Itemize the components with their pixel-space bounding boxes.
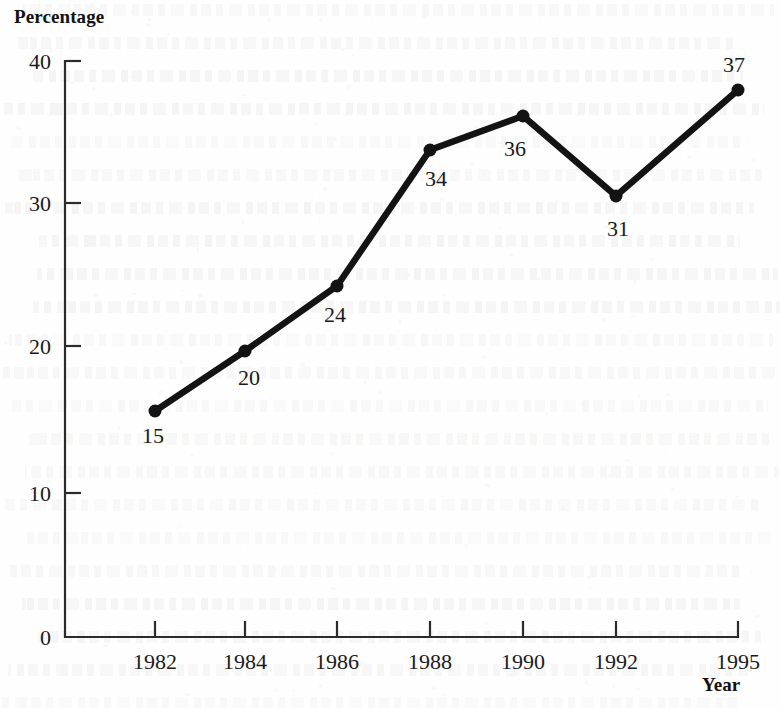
chart-page: Percentage Year 010203040 19821984198619… [0,0,780,708]
axis-group [65,61,738,637]
x-tick-label: 1984 [223,649,267,674]
y-axis-title: Percentage [14,6,104,28]
data-point-marker [149,405,162,418]
data-point-labels: 15202434363137 [142,52,745,448]
x-tick-label: 1982 [133,649,177,674]
series-line [155,90,738,411]
data-point-marker [517,110,530,123]
data-point-value-label: 31 [607,216,629,241]
y-axis-ticks [65,61,81,493]
line-chart-svg: 010203040 1982198419861988199019921995 1… [0,0,780,708]
y-tick-label: 0 [40,625,51,650]
x-tick-label: 1986 [315,649,359,674]
x-tick-label: 1988 [408,649,452,674]
data-point-value-label: 34 [425,166,447,191]
x-tick-label: 1995 [716,649,760,674]
y-tick-label: 40 [29,49,51,74]
x-axis-title: Year [702,674,740,696]
data-point-value-label: 36 [504,136,526,161]
x-tick-label: 1992 [594,649,638,674]
data-point-value-label: 20 [238,365,260,390]
axis-lines [65,61,738,637]
data-point-marker [424,144,437,157]
data-point-value-label: 24 [324,302,346,327]
x-axis-ticks [155,621,738,637]
data-point-value-label: 15 [142,423,164,448]
data-point-marker [610,190,623,203]
y-tick-label: 20 [29,334,51,359]
data-point-value-label: 37 [723,52,745,77]
data-point-marker [239,345,252,358]
data-point-marker [331,280,344,293]
data-series-percentage [155,90,738,411]
x-axis-tick-labels: 1982198419861988199019921995 [133,649,760,674]
x-tick-label: 1990 [501,649,545,674]
y-tick-label: 10 [29,481,51,506]
chart-figure: 010203040 1982198419861988199019921995 1… [0,0,780,708]
y-axis-tick-labels: 010203040 [29,49,51,650]
y-tick-label: 30 [29,191,51,216]
data-point-marker [732,84,745,97]
